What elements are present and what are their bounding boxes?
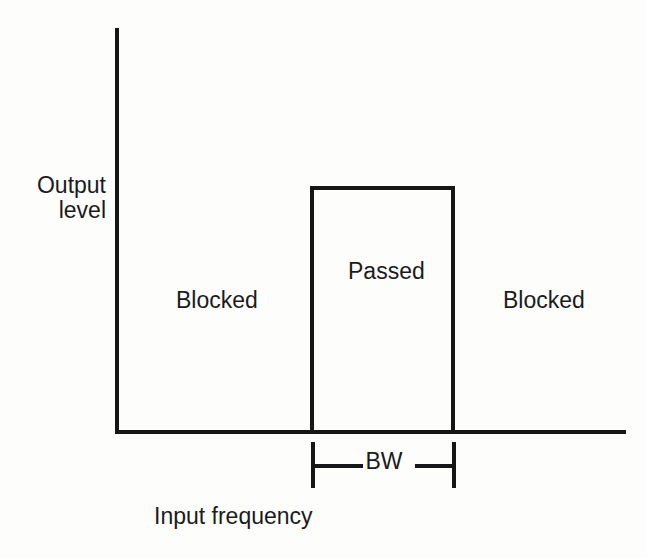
bandwidth-label: BW (359, 450, 409, 473)
bandwidth-dimension: BW (311, 442, 457, 490)
bandwidth-rule-right (415, 464, 454, 468)
passband-rectangle (310, 186, 455, 434)
region-label-passed: Passed (348, 260, 425, 283)
bandwidth-rule-left (314, 464, 363, 468)
y-axis-title-line-1: Output (0, 173, 106, 198)
x-axis-title: Input frequency (154, 505, 313, 528)
bandpass-filter-response-figure: Output level Blocked Passed Blocked BW I… (0, 0, 647, 558)
y-axis-title-line-2: level (0, 198, 106, 223)
y-axis-title: Output level (0, 173, 106, 223)
region-label-blocked-right: Blocked (503, 289, 585, 312)
y-axis-line (115, 28, 119, 434)
region-label-blocked-left: Blocked (176, 289, 258, 312)
